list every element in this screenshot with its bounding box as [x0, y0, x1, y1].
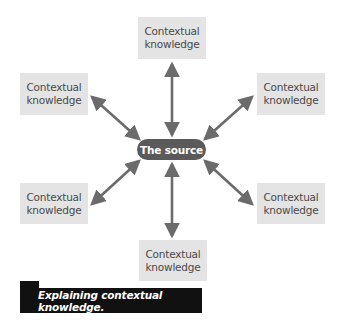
node-label-line1: Contextual	[26, 191, 81, 204]
node-lower-right: Contextual knowledge	[257, 183, 325, 224]
figure-caption: Explaining contextual knowledge.	[20, 288, 202, 313]
caption-text: Explaining contextual knowledge.	[38, 289, 202, 313]
node-label-line1: Contextual	[26, 81, 81, 94]
node-label-line2: knowledge	[144, 38, 199, 51]
node-label-line1: Contextual	[144, 25, 199, 38]
arrow-upper-right	[205, 97, 252, 139]
node-label-line1: Contextual	[145, 248, 200, 261]
node-label-line2: knowledge	[26, 204, 81, 217]
center-node-the-source: The source	[137, 139, 206, 160]
node-label-line1: Contextual	[263, 81, 318, 94]
arrow-lower-left	[92, 161, 139, 204]
node-top: Contextual knowledge	[138, 17, 206, 59]
arrow-upper-left	[92, 97, 139, 139]
node-upper-right: Contextual knowledge	[257, 73, 325, 115]
node-label-line2: knowledge	[263, 94, 318, 107]
node-upper-left: Contextual knowledge	[20, 73, 88, 115]
node-lower-left: Contextual knowledge	[20, 183, 88, 224]
node-label-line2: knowledge	[263, 204, 318, 217]
node-bottom: Contextual knowledge	[139, 240, 207, 281]
node-label-line2: knowledge	[26, 94, 81, 107]
arrow-lower-right	[205, 161, 252, 204]
node-label-line2: knowledge	[145, 261, 200, 274]
node-label-line1: Contextual	[263, 191, 318, 204]
